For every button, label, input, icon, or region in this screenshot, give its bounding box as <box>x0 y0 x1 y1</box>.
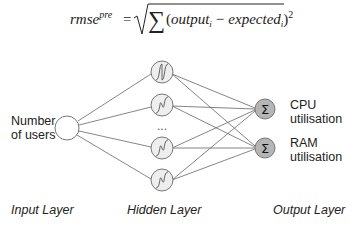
hidden-node <box>151 94 173 116</box>
input-layer-label: Input Layer <box>11 203 74 217</box>
hidden-node <box>151 137 173 159</box>
output-layer-label: Output Layer <box>273 203 345 217</box>
input-label: Number of users <box>11 114 55 142</box>
sigma-icon: Σ <box>261 102 269 117</box>
sigma-icon: Σ <box>261 141 269 156</box>
hidden-node <box>151 169 173 191</box>
hidden-layer-label: Hidden Layer <box>127 203 201 217</box>
hidden-node <box>151 61 173 83</box>
input-node <box>55 116 79 140</box>
hidden-output-edges <box>172 74 255 180</box>
cpu-output-label: CPU utilisation <box>290 98 342 126</box>
input-hidden-edges <box>77 74 151 179</box>
output-node-cpu: Σ <box>255 99 275 119</box>
ram-output-label: RAM utilisation <box>290 136 342 164</box>
hidden-ellipsis: ... <box>157 119 167 133</box>
output-node-ram: Σ <box>255 138 275 158</box>
